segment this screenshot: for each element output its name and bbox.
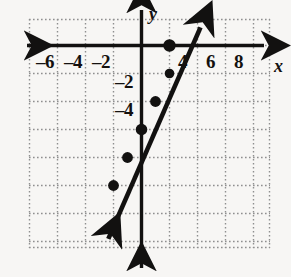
data-point [163, 39, 175, 51]
y-axis-label: y [149, 5, 157, 23]
x-tick-label-neg4: –4 [64, 52, 82, 71]
data-point [136, 124, 148, 136]
data-point [108, 180, 119, 191]
y-tick-label-neg4: –4 [115, 100, 133, 119]
data-point [150, 96, 161, 107]
data-point [122, 152, 133, 163]
plot-background [0, 0, 291, 277]
x-tick-label-neg6: –6 [36, 52, 54, 71]
graph-screenshot: –6 –4 –2 4 6 8 –2 –4 x y [0, 0, 291, 277]
coordinate-plane-graph [0, 0, 291, 277]
x-tick-label-6: 6 [206, 52, 215, 71]
x-axis-label: x [274, 57, 283, 75]
x-tick-label-8: 8 [234, 52, 243, 71]
x-tick-label-neg2: –2 [92, 52, 110, 71]
data-point [165, 69, 175, 79]
x-tick-label-4: 4 [178, 52, 187, 71]
y-tick-label-neg2: –2 [115, 72, 133, 91]
